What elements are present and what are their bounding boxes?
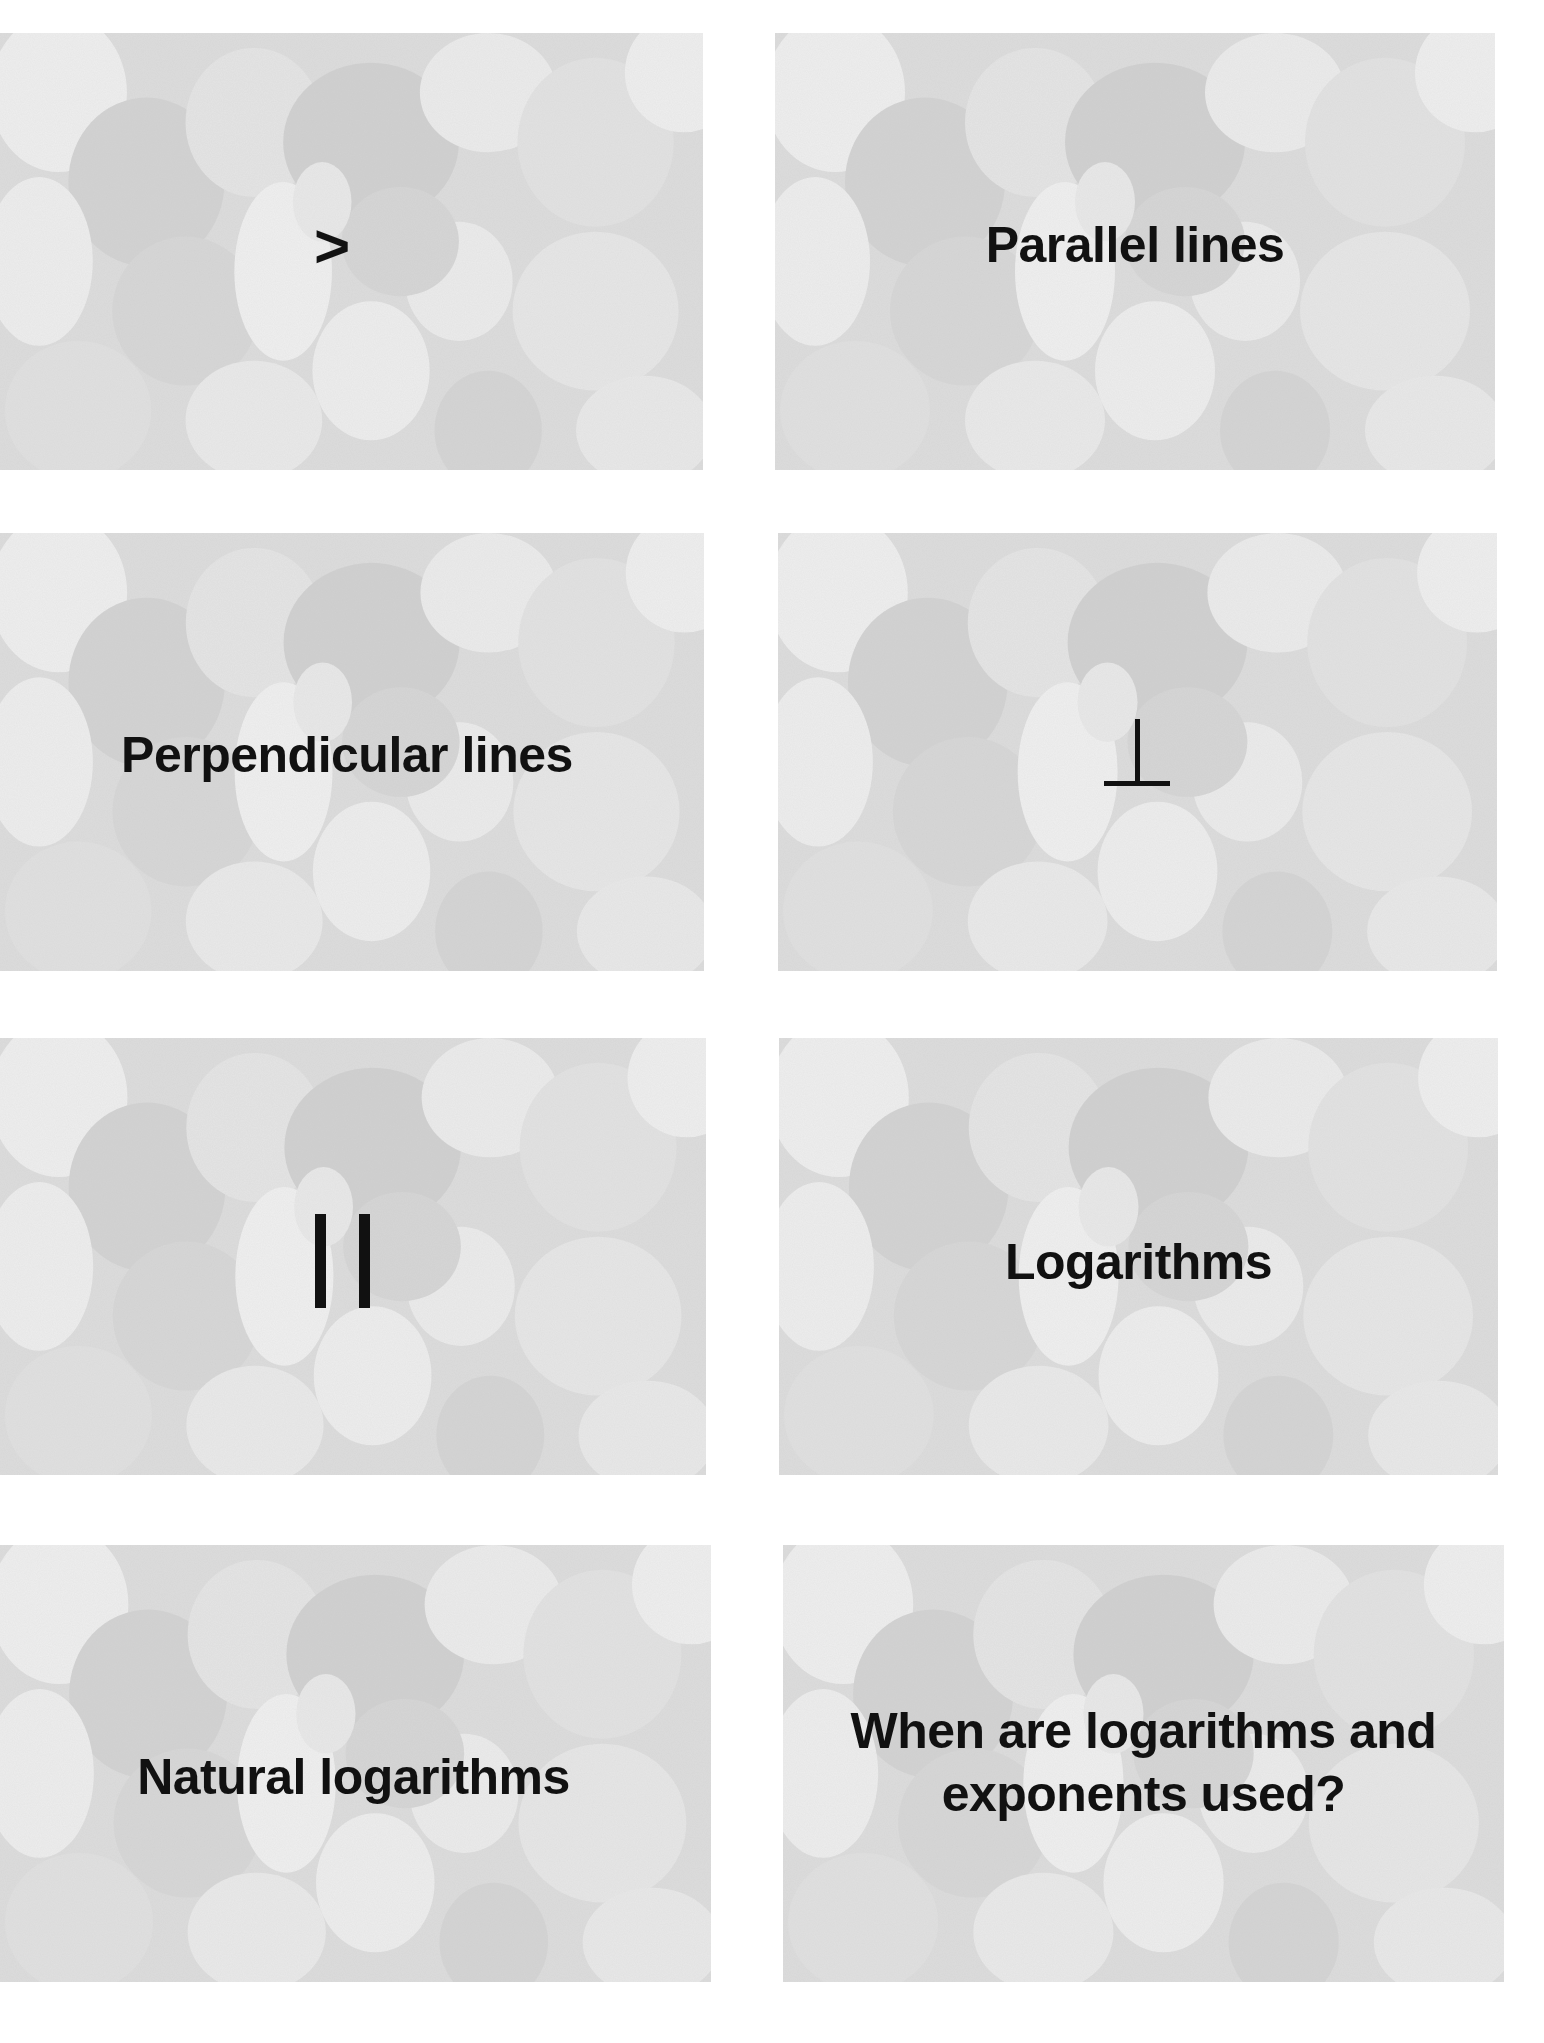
flashcard-greater-than: > [0, 33, 703, 470]
card-label: Perpendicular lines [0, 724, 704, 787]
card-texture [0, 33, 703, 470]
flashcard-logarithms-usage-question: When are logarithms and exponents used? [783, 1545, 1504, 1982]
card-label: Natural logarithms [0, 1746, 711, 1809]
parallel-stroke-left [315, 1214, 326, 1308]
card-label: When are logarithms and exponents used? [783, 1700, 1504, 1826]
flashcard-parallel-lines: Parallel lines [775, 33, 1495, 470]
perpendicular-vertical-stroke [1135, 719, 1140, 785]
flashcard-parallel-symbol [0, 1038, 706, 1475]
flashcard-perpendicular-symbol [778, 533, 1497, 971]
card-label: Parallel lines [775, 214, 1495, 277]
flashcard-natural-logarithms: Natural logarithms [0, 1545, 711, 1982]
flashcard-perpendicular-lines: Perpendicular lines [0, 533, 704, 971]
parallel-stroke-right [359, 1214, 370, 1308]
greater-than-symbol: > [314, 215, 350, 277]
card-label: Logarithms [779, 1231, 1498, 1294]
perpendicular-horizontal-stroke [1104, 781, 1170, 786]
parallel-symbol [0, 1038, 706, 1475]
perpendicular-symbol [778, 533, 1497, 971]
flashcard-logarithms: Logarithms [779, 1038, 1498, 1475]
